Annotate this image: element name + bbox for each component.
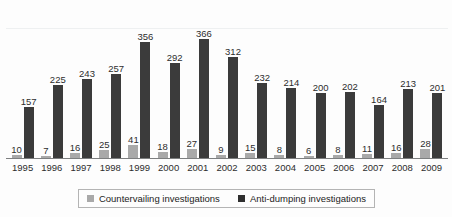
x-axis-tick-label: 2001 (183, 160, 212, 176)
legend-item-antidumping[interactable]: Anti-dumping investigations (238, 194, 366, 204)
bar-column: 257 (111, 0, 121, 158)
x-axis-tick-label: 2000 (154, 160, 183, 176)
bar-column: 157 (24, 0, 34, 158)
bar[interactable] (170, 63, 180, 158)
bar-column: 8 (333, 0, 343, 158)
x-axis-tick-label: 2004 (271, 160, 300, 176)
bar[interactable] (41, 156, 51, 158)
bar[interactable] (362, 154, 372, 158)
bar-column: 292 (170, 0, 180, 158)
bar[interactable] (216, 155, 226, 158)
bar-column: 366 (199, 0, 209, 158)
bar-group: 9312 (212, 0, 241, 158)
bar[interactable] (12, 155, 22, 158)
bar[interactable] (345, 92, 355, 158)
bar[interactable] (228, 57, 238, 158)
bar-column: 16 (70, 0, 80, 158)
bar-value-label: 243 (79, 69, 95, 79)
legend-label-countervailing: Countervailing investigations (99, 194, 220, 204)
bar[interactable] (111, 74, 121, 158)
bar[interactable] (187, 149, 197, 158)
legend-item-countervailing[interactable]: Countervailing investigations (87, 194, 220, 204)
bar[interactable] (257, 83, 267, 158)
bar-column: 10 (12, 0, 22, 158)
bar-value-label: 18 (157, 142, 168, 152)
bar-column: 9 (216, 0, 226, 158)
bar-group: 16213 (388, 0, 417, 158)
bar-column: 18 (158, 0, 168, 158)
bar-group: 8202 (329, 0, 358, 158)
bar-value-label: 16 (391, 143, 402, 153)
bar-value-label: 11 (362, 144, 372, 154)
x-axis-tick-label: 2002 (212, 160, 241, 176)
bar-value-label: 356 (137, 32, 153, 42)
bar-value-label: 9 (218, 145, 223, 155)
bar-value-label: 366 (196, 29, 212, 39)
bar-value-label: 8 (277, 145, 282, 155)
legend-swatch-antidumping-icon (238, 195, 245, 202)
bar-group: 11164 (358, 0, 387, 158)
chart-screenshot: 1015772251624325257413561829227366931215… (0, 0, 452, 217)
x-axis-tick-label: 1998 (96, 160, 125, 176)
bar[interactable] (374, 105, 384, 158)
bar[interactable] (403, 89, 413, 158)
bar-column: 213 (403, 0, 413, 158)
x-axis-tick-label: 2007 (358, 160, 387, 176)
bar-value-label: 213 (400, 79, 416, 89)
bar-value-label: 7 (43, 146, 48, 156)
bar[interactable] (24, 107, 34, 158)
bar-value-label: 214 (283, 78, 299, 88)
bar[interactable] (316, 93, 326, 158)
bar-column: 6 (304, 0, 314, 158)
bar-column: 164 (374, 0, 384, 158)
x-axis-tick-label: 2005 (300, 160, 329, 176)
bar-group: 25257 (96, 0, 125, 158)
legend-swatch-countervailing-icon (87, 195, 94, 202)
bar[interactable] (140, 42, 150, 158)
bar-group: 28201 (417, 0, 446, 158)
bar-group: 15232 (242, 0, 271, 158)
bar-column: 41 (128, 0, 138, 158)
bar-value-label: 312 (225, 47, 241, 57)
bar-column: 202 (345, 0, 355, 158)
bar[interactable] (286, 88, 296, 158)
bar-column: 214 (286, 0, 296, 158)
bar-group: 41356 (125, 0, 154, 158)
bar[interactable] (70, 153, 80, 158)
bar-group: 10157 (8, 0, 37, 158)
bar[interactable] (420, 149, 430, 158)
x-axis-tick-label: 1999 (125, 160, 154, 176)
x-axis-tick-label: 1997 (66, 160, 95, 176)
bar-group: 18292 (154, 0, 183, 158)
bar-group: 27366 (183, 0, 212, 158)
bar[interactable] (53, 85, 63, 158)
bar-value-label: 16 (70, 143, 81, 153)
bar[interactable] (199, 39, 209, 158)
chart-legend: Countervailing investigations Anti-dumpi… (78, 189, 375, 208)
bar-group: 7225 (37, 0, 66, 158)
bar[interactable] (245, 153, 255, 158)
bar[interactable] (128, 145, 138, 158)
bar[interactable] (82, 79, 92, 158)
bar[interactable] (432, 93, 442, 158)
x-axis-tick-label: 1995 (8, 160, 37, 176)
bar[interactable] (391, 153, 401, 158)
bar[interactable] (158, 152, 168, 158)
bar-column: 25 (99, 0, 109, 158)
bar-value-label: 27 (187, 139, 198, 149)
bar-value-label: 157 (21, 97, 37, 107)
bar-value-label: 225 (50, 75, 66, 85)
bar-value-label: 41 (128, 135, 139, 145)
bar[interactable] (333, 155, 343, 158)
bar-column: 201 (432, 0, 442, 158)
bar-value-label: 232 (254, 73, 270, 83)
bar[interactable] (304, 156, 314, 158)
bar-group: 8214 (271, 0, 300, 158)
bar-group: 16243 (66, 0, 95, 158)
bar[interactable] (274, 155, 284, 158)
bar-column: 225 (53, 0, 63, 158)
bar-column: 312 (228, 0, 238, 158)
x-axis-tick-label: 2006 (329, 160, 358, 176)
bar-value-label: 200 (313, 83, 329, 93)
bar[interactable] (99, 150, 109, 158)
